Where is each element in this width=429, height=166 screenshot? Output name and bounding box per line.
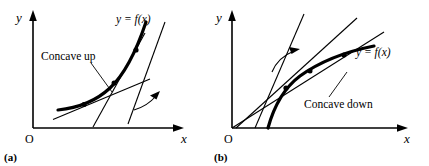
origin-label-a: O <box>25 132 34 146</box>
tangent-point-3-b <box>342 53 347 58</box>
origin-label-b: O <box>224 132 233 146</box>
concavity-figure: y x O y = f(x) Concave up (a) <box>0 0 429 166</box>
panel-concave-up: y x O y = f(x) Concave up (a) <box>0 0 215 166</box>
panel-concave-down: y x O y = f(x) Concave down (b) <box>214 0 429 166</box>
tangent-point-1-b <box>283 85 288 90</box>
tangent-line-1-b <box>255 14 304 128</box>
tangent-point-3-a <box>133 47 138 52</box>
concave-down-leader-line <box>329 72 347 97</box>
panel-caption-a: (a) <box>4 151 17 164</box>
x-axis-label-a: x <box>180 131 187 146</box>
tangent-point-2-a <box>112 81 117 86</box>
function-label-a: y = f(x) <box>115 13 151 26</box>
panel-caption-b: (b) <box>214 151 228 164</box>
concave-up-leader-line <box>91 63 112 92</box>
tangent-line-1-a <box>53 79 150 120</box>
concave-down-annotation: Concave down <box>304 98 373 110</box>
function-label-b: y = f(x) <box>355 46 391 59</box>
concave-up-annotation: Concave up <box>41 50 96 63</box>
tangent-line-3-a <box>128 22 165 124</box>
tangent-point-1-a <box>82 102 87 107</box>
y-axis-b <box>228 10 236 128</box>
y-axis-a <box>29 10 37 128</box>
slope-direction-arrow-a <box>134 91 160 110</box>
x-axis-label-b: x <box>403 131 410 146</box>
slope-direction-arrow-b <box>272 47 300 72</box>
tangent-point-2-b <box>308 69 313 74</box>
y-axis-label-a: y <box>14 10 22 25</box>
y-axis-label-b: y <box>214 10 222 25</box>
tangent-line-2-b <box>236 18 357 128</box>
function-curve-a <box>58 22 146 110</box>
x-axis-b <box>232 124 408 132</box>
x-axis-a <box>33 124 184 132</box>
